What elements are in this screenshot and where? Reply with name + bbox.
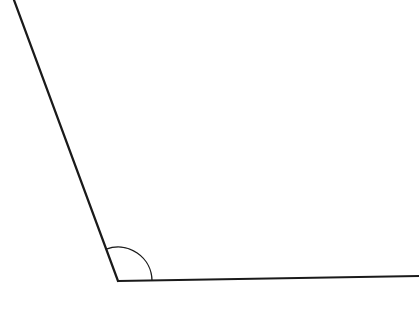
angle-arc bbox=[106, 247, 152, 280]
ray-right bbox=[118, 276, 419, 281]
ray-left bbox=[14, 0, 118, 281]
angle-diagram bbox=[0, 0, 419, 310]
